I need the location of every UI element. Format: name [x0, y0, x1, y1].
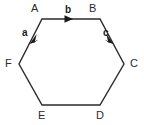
vector-label-a: a [22, 28, 28, 38]
vertex-label-c: C [130, 58, 138, 69]
arrowhead-b-icon [65, 15, 74, 23]
vertex-label-e: E [38, 110, 45, 121]
vertex-label-b: B [89, 3, 96, 14]
vertex-label-a: A [31, 3, 38, 14]
vector-label-c: c [103, 28, 109, 38]
vertex-label-d: D [96, 110, 104, 121]
hexagon-vector-svg [0, 0, 144, 125]
vertex-label-f: F [5, 58, 12, 69]
hexagon-diagram: A B C D E F a b c [0, 0, 144, 125]
vector-label-b: b [65, 5, 71, 15]
